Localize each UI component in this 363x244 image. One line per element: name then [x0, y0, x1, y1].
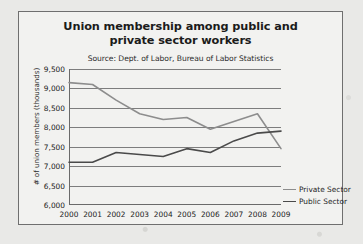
- y-axis-tick-label: 9,000: [25, 84, 65, 93]
- plot-right-edge: [281, 69, 282, 204]
- y-axis-tick-label: 9,500: [25, 65, 65, 74]
- legend-label: Private Sector: [299, 185, 351, 194]
- series-lines: [69, 69, 281, 205]
- legend-item: Public Sector: [283, 196, 343, 207]
- x-axis-tick-label: 2004: [154, 210, 173, 219]
- legend-label: Public Sector: [299, 197, 347, 206]
- y-axis-tick-label: 7,000: [25, 162, 65, 171]
- y-axis-tick-label: 8,000: [25, 123, 65, 132]
- x-axis-tick-label: 2006: [201, 210, 220, 219]
- y-axis-tick-label: 6,000: [25, 201, 65, 210]
- y-axis-tick-label: 8,500: [25, 103, 65, 112]
- x-axis-tick-label: 2009: [272, 210, 291, 219]
- x-axis-tick-label: 2000: [60, 210, 79, 219]
- legend-line-swatch: [283, 201, 296, 202]
- legend-line-swatch: [283, 189, 296, 190]
- legend-item: Private Sector: [283, 184, 343, 195]
- x-axis-tick-label: 2002: [107, 210, 126, 219]
- series-line: [69, 131, 281, 162]
- chart-title: Union membership among public and privat…: [19, 12, 342, 47]
- y-axis-tick-labels: 9,5009,0008,5008,0007,5007,0006,5006,000: [24, 58, 65, 226]
- x-axis-tick-label: 2001: [83, 210, 102, 219]
- x-axis-tick-label: 2008: [248, 210, 267, 219]
- chart-legend: Private SectorPublic Sector: [283, 184, 343, 208]
- x-axis-tick-labels: 2000200120022003200420052006200720082009: [69, 210, 281, 222]
- y-axis-tick-label: 6,500: [25, 181, 65, 190]
- y-axis-tick-label: 7,500: [25, 142, 65, 151]
- plot-area: # of union members (thousands) 9,5009,00…: [19, 58, 344, 226]
- series-line: [69, 83, 281, 149]
- x-axis-tick-label: 2003: [130, 210, 149, 219]
- chart-card: Union membership among public and privat…: [18, 11, 343, 225]
- x-axis-tick-label: 2007: [224, 210, 243, 219]
- x-axis-tick-label: 2005: [177, 210, 196, 219]
